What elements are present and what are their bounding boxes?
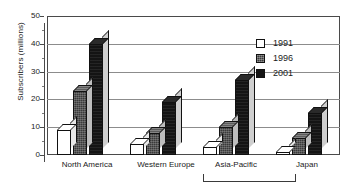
legend-item-2001: 2001 — [256, 66, 318, 81]
legend: 1991 1996 2001 — [256, 36, 318, 81]
bar-front-face — [57, 130, 71, 155]
bar-north-america-1991 — [57, 130, 71, 155]
bar-western-europe-1991 — [130, 144, 144, 155]
y-axis-tick-marks — [0, 16, 47, 162]
bar-group — [130, 16, 176, 155]
y-axis-spine — [44, 23, 45, 162]
bar-asia-pacific-1991 — [203, 147, 217, 155]
bar-front-face — [276, 152, 290, 155]
bracket-span — [203, 181, 296, 182]
legend-label: 1996 — [273, 54, 293, 63]
bar-chart: Subscribers (millions) 50 40 30 20 10 0 — [0, 0, 355, 189]
x-axis-labels: North America Western Europe Asia-Pacifi… — [47, 160, 340, 174]
bar-front-face — [203, 147, 217, 155]
legend-label: 2001 — [273, 69, 293, 78]
legend-item-1991: 1991 — [256, 36, 318, 51]
legend-label: 1991 — [273, 39, 293, 48]
bracket-right-tick — [295, 174, 296, 182]
x-label-north-america: North America — [43, 160, 131, 169]
legend-swatch-icon — [256, 54, 265, 63]
bar-side-face — [102, 30, 109, 149]
legend-swatch-icon — [256, 39, 265, 48]
bar-japan-1991 — [276, 152, 290, 155]
x-label-asia-pacific: Asia-Pacific — [197, 160, 275, 169]
x-label-japan: Japan — [275, 160, 339, 169]
legend-swatch-icon — [256, 69, 265, 78]
bar-group — [203, 16, 249, 155]
bar-group — [57, 16, 103, 155]
bar-front-face — [130, 144, 144, 155]
category-bracket — [203, 174, 296, 182]
legend-item-1996: 1996 — [256, 51, 318, 66]
